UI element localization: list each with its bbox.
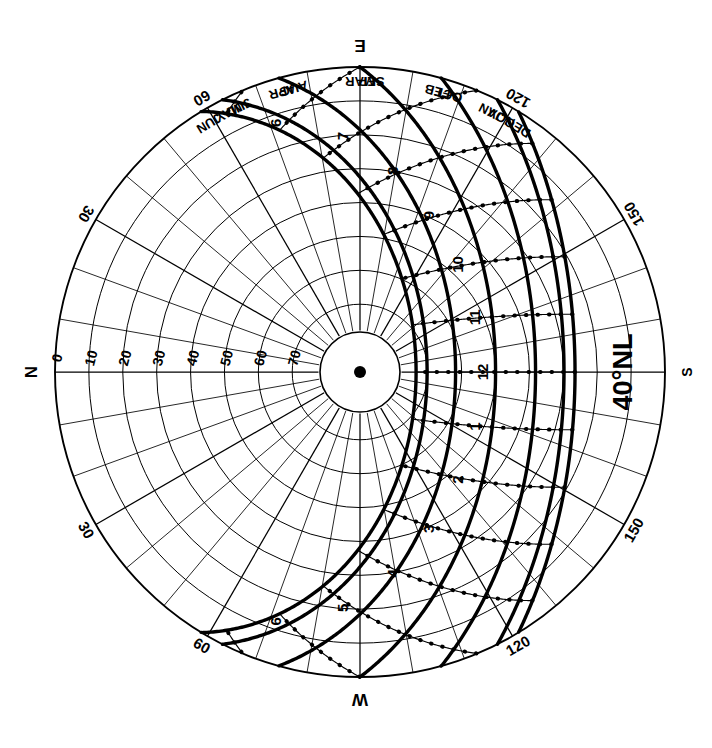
hour-label-noon: 12	[474, 364, 491, 381]
cardinal-label-south: S	[679, 367, 695, 376]
sun-path-chart: EWNS40°NL0102030405060703060120150306012…	[0, 0, 712, 748]
hour-label-11am: 11	[466, 309, 483, 325]
hour-label-10am: 10	[449, 256, 466, 273]
sun-path-svg: EWNS40°NL0102030405060703060120150306012…	[0, 0, 712, 748]
cardinal-label-north: N	[22, 366, 41, 378]
hour-label-2pm: 2	[449, 475, 466, 483]
hour-label-7am: 7	[335, 132, 352, 140]
month-label-sep: SEP	[358, 74, 384, 89]
hour-label-9am: 9	[421, 211, 438, 219]
hour-label-3pm: 3	[421, 525, 438, 533]
cardinal-label-east: E	[354, 36, 365, 55]
hour-label-5pm: 5	[335, 604, 352, 612]
hour-label-4pm: 4	[384, 568, 401, 577]
hour-label-6am: 6	[267, 119, 284, 127]
hour-label-8am: 8	[384, 167, 401, 175]
hour-label-1pm: 1	[466, 422, 483, 430]
latitude-title: 40°NL	[608, 334, 638, 411]
zenith-center	[318, 330, 401, 413]
hour-label-6pm: 6	[267, 617, 284, 625]
cardinal-label-west: W	[351, 690, 368, 709]
